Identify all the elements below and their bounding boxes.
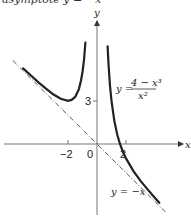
- equation-numerator: 4 − x³: [130, 77, 162, 88]
- tick-label-2: 2: [120, 148, 126, 160]
- asymptote-label: y = −x: [110, 186, 146, 197]
- equation-denominator: x²: [138, 90, 148, 101]
- tick-label-0: 0: [87, 148, 93, 160]
- y-axis-label: y: [93, 7, 100, 18]
- tick-label-neg2: −2: [60, 148, 73, 160]
- function-plot: y x −2 0 2 3 y = 4 − x³ x² y = −x: [0, 0, 191, 223]
- tick-label-3: 3: [85, 95, 91, 107]
- curve-left-branch: [23, 43, 85, 101]
- curve-right-branch: [108, 46, 160, 202]
- x-axis-label: x: [185, 139, 191, 150]
